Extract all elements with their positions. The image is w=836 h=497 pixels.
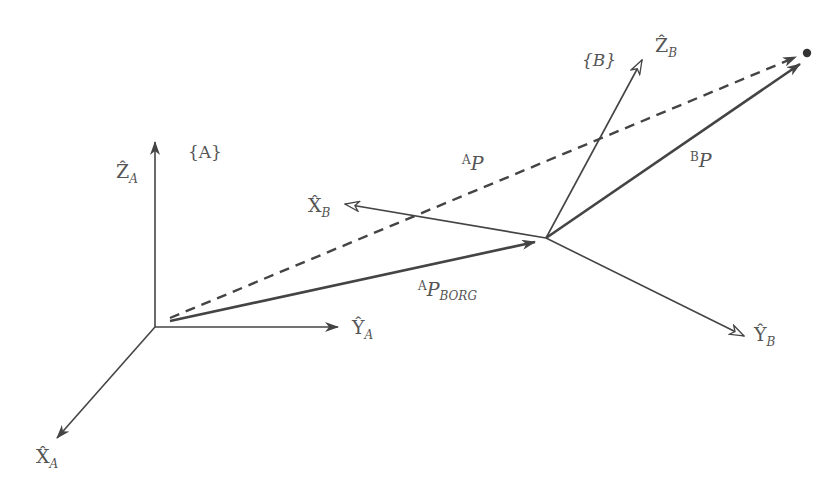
a-p-label: AP [461,152,485,174]
x-b-label: X̂B [308,194,331,220]
target-point [803,49,811,57]
z-a-label: ẐA [116,160,138,186]
frame-a-label: {A} [188,142,222,162]
y-b-label: ŶB [753,323,776,349]
vector-b-p [546,64,800,238]
a-p-borg-label: APBORG [417,278,477,303]
frame-diagram: {A} ẐA ŶA X̂A {B} ẐB X̂B ŶB AP BP APBORG [0,0,836,497]
b-p-label: BP [690,149,713,171]
x-a-axis [57,327,155,438]
vector-a-p [170,57,796,318]
z-b-label: ẐB [655,34,677,60]
y-a-label: ŶA [351,316,374,342]
x-a-label: X̂A [36,445,59,471]
z-b-axis [546,60,642,238]
vector-a-p-borg [170,242,535,321]
y-b-axis [546,238,744,336]
frame-b-label: {B} [582,50,616,70]
